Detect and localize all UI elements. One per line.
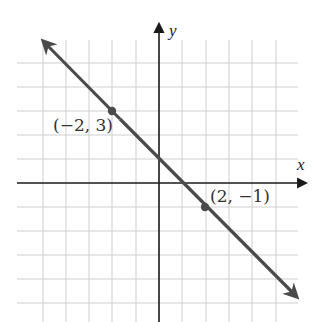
x-axis-label: x (296, 155, 305, 174)
data-line (44, 42, 120, 119)
point-label-2: (2, −1) (210, 186, 270, 206)
coordinate-plane: x y (−2, 3) (2, −1) (0, 0, 315, 322)
y-axis-label: y (167, 21, 177, 40)
point-label-1: (−2, 3) (53, 115, 113, 135)
point-2-neg1 (201, 203, 209, 211)
grid (17, 40, 298, 322)
point-neg2-3 (108, 107, 116, 115)
